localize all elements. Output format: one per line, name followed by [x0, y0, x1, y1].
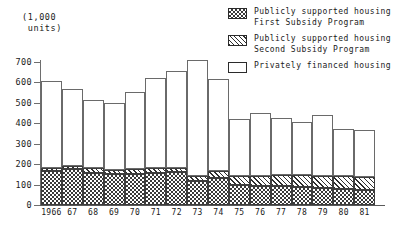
- bar-segment-first-subsidy: [333, 189, 354, 205]
- bar-76: [250, 113, 271, 205]
- y-axis-tick-label: 100: [6, 180, 32, 190]
- bar-1966: [41, 81, 62, 205]
- bar-segment-private: [145, 78, 166, 168]
- legend-label-first-subsidy: Publicly supported housing First Subsidy…: [254, 7, 391, 28]
- bar-segment-second-subsidy: [104, 170, 125, 174]
- bar-segment-private: [187, 60, 208, 176]
- bar-segment-private: [104, 103, 125, 170]
- bar-segment-second-subsidy: [83, 168, 104, 173]
- bar-segment-second-subsidy: [62, 166, 83, 169]
- bar-72: [166, 71, 187, 205]
- y-axis-tick-label: 200: [6, 159, 32, 169]
- bar-segment-second-subsidy: [312, 176, 333, 187]
- bar-segment-second-subsidy: [354, 177, 375, 189]
- bar-segment-private: [83, 100, 104, 168]
- bar-segment-second-subsidy: [229, 176, 250, 184]
- bar-segment-second-subsidy: [145, 168, 166, 173]
- bar-segment-first-subsidy: [41, 171, 62, 205]
- bar-segment-private: [271, 118, 292, 175]
- bar-80: [333, 129, 354, 205]
- checkerboard-swatch-icon: [228, 8, 247, 19]
- bar-segment-first-subsidy: [104, 174, 125, 205]
- bar-segment-private: [229, 119, 250, 176]
- bar-79: [312, 115, 333, 205]
- bar-segment-first-subsidy: [354, 190, 375, 205]
- bar-segment-second-subsidy: [125, 169, 146, 174]
- bar-segment-second-subsidy: [41, 168, 62, 171]
- bar-segment-first-subsidy: [125, 174, 146, 205]
- bar-segment-first-subsidy: [145, 173, 166, 205]
- bar-segment-first-subsidy: [187, 181, 208, 206]
- bar-75: [229, 119, 250, 205]
- y-axis-tick: [34, 103, 40, 104]
- x-axis-tick-label: 81: [348, 208, 381, 217]
- bar-70: [125, 92, 146, 205]
- bar-segment-first-subsidy: [208, 178, 229, 205]
- diagonal-hatch-swatch-icon: [228, 35, 247, 46]
- y-axis-tick: [34, 82, 40, 83]
- bar-segment-private: [125, 92, 146, 170]
- y-axis-tick-label: 600: [6, 77, 32, 87]
- bar-segment-second-subsidy: [292, 175, 313, 186]
- bar-68: [83, 100, 104, 205]
- bar-81: [354, 130, 375, 205]
- bar-segment-first-subsidy: [271, 186, 292, 205]
- bar-segment-first-subsidy: [229, 185, 250, 205]
- y-axis-tick: [34, 123, 40, 124]
- y-axis-tick-label: 500: [6, 98, 32, 108]
- legend-item-second-subsidy: Publicly supported housing Second Subsid…: [228, 34, 391, 55]
- bar-67: [62, 89, 83, 205]
- bar-segment-first-subsidy: [292, 187, 313, 205]
- bar-segment-second-subsidy: [208, 171, 229, 178]
- bar-segment-private: [312, 115, 333, 176]
- bar-71: [145, 78, 166, 205]
- bar-73: [187, 60, 208, 205]
- bar-segment-private: [62, 89, 83, 167]
- y-axis-tick-label: 700: [6, 57, 32, 67]
- plot-area: [41, 62, 375, 205]
- bar-69: [104, 103, 125, 205]
- bar-segment-first-subsidy: [62, 169, 83, 205]
- bar-segment-first-subsidy: [250, 186, 271, 205]
- y-axis-tick: [34, 205, 40, 206]
- y-axis-tick-label: 400: [6, 118, 32, 128]
- bar-segment-private: [41, 81, 62, 168]
- legend-item-first-subsidy: Publicly supported housing First Subsidy…: [228, 7, 391, 28]
- bar-segment-second-subsidy: [250, 176, 271, 185]
- bar-segment-second-subsidy: [333, 176, 354, 188]
- bar-77: [271, 118, 292, 205]
- bar-segment-second-subsidy: [166, 168, 187, 172]
- legend-label-second-subsidy: Publicly supported housing Second Subsid…: [254, 34, 391, 55]
- bar-segment-first-subsidy: [166, 172, 187, 205]
- y-axis-tick: [34, 164, 40, 165]
- y-axis-labels: 0100200300400500600700: [0, 0, 32, 236]
- y-axis-tick: [34, 62, 40, 63]
- bar-segment-private: [166, 71, 187, 168]
- y-axis-tick-label: 300: [6, 139, 32, 149]
- x-axis-line: [40, 205, 385, 206]
- bar-segment-private: [208, 79, 229, 171]
- bar-segment-first-subsidy: [83, 173, 104, 205]
- bar-74: [208, 79, 229, 205]
- y-axis-tick-label: 0: [6, 200, 32, 210]
- bar-segment-private: [354, 130, 375, 177]
- bar-segment-second-subsidy: [187, 176, 208, 180]
- bar-segment-private: [250, 113, 271, 176]
- bar-78: [292, 122, 313, 205]
- bar-segment-second-subsidy: [271, 175, 292, 185]
- bar-chart: (1,000 units) Publicly supported housing…: [0, 0, 419, 236]
- bar-segment-private: [292, 122, 313, 175]
- bar-segment-first-subsidy: [312, 188, 333, 205]
- bar-segment-private: [333, 129, 354, 176]
- y-axis-tick: [34, 144, 40, 145]
- y-axis-tick: [34, 185, 40, 186]
